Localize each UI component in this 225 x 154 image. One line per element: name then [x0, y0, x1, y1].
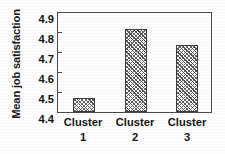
x-tick-line1: Cluster	[57, 115, 109, 130]
bar-cluster-1	[73, 98, 95, 112]
x-tick-line2: 3	[161, 130, 213, 145]
y-axis-tick-labels: 4.9 4.8 4.7 4.6 4.5 4.4	[21, 6, 54, 122]
bar-chart-figure: Mean job satisfaction 4.9 4.8 4.7 4.6 4.…	[0, 0, 225, 154]
plot-area	[57, 12, 212, 113]
x-tick-label-cluster-1: Cluster 1	[57, 115, 109, 145]
bar-cluster-2	[125, 29, 147, 112]
y-tick-label: 4.7	[21, 53, 54, 66]
bar-series	[58, 13, 211, 112]
y-tick-label: 4.9	[21, 13, 54, 26]
x-tick-label-cluster-2: Cluster 2	[109, 115, 161, 145]
bar-cluster-3	[176, 45, 198, 112]
y-tick-label: 4.5	[21, 93, 54, 106]
y-tick-label: 4.4	[21, 113, 54, 126]
x-tick-label-cluster-3: Cluster 3	[161, 115, 213, 145]
x-axis-tick-labels: Cluster 1 Cluster 2 Cluster 3	[57, 115, 212, 153]
x-tick-line1: Cluster	[109, 115, 161, 130]
y-tick-label: 4.8	[21, 33, 54, 46]
x-tick-line2: 2	[109, 130, 161, 145]
y-tick-label: 4.6	[21, 73, 54, 86]
x-tick-line1: Cluster	[161, 115, 213, 130]
x-tick-line2: 1	[57, 130, 109, 145]
